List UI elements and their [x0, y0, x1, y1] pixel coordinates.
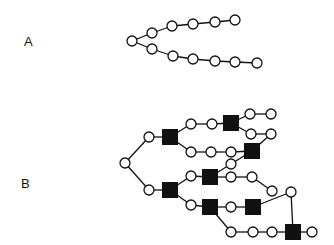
open-circle-node	[188, 19, 198, 29]
open-circle-node	[245, 109, 255, 119]
open-circle-node	[186, 200, 196, 210]
open-circle-node	[252, 58, 262, 68]
open-circle-node	[186, 171, 196, 181]
open-circle-node	[168, 51, 178, 61]
open-circle-node	[147, 28, 157, 38]
open-circle-node	[206, 147, 216, 157]
filled-square-node	[285, 224, 301, 240]
filled-square-node	[162, 129, 178, 145]
open-circle-node	[247, 172, 257, 182]
open-circle-node	[127, 36, 137, 46]
open-circle-node	[267, 186, 277, 196]
open-circle-node	[226, 147, 236, 157]
filled-square-node	[202, 169, 218, 185]
open-circle-node	[230, 57, 240, 67]
open-circle-node	[266, 129, 276, 139]
open-circle-node	[226, 227, 236, 237]
filled-square-node	[162, 182, 178, 198]
open-circle-node	[246, 129, 256, 139]
open-circle-node	[120, 158, 130, 168]
open-circle-node	[267, 227, 277, 237]
open-circle-node	[186, 147, 196, 157]
filled-square-node	[245, 199, 261, 215]
open-circle-node	[226, 202, 236, 212]
open-circle-node	[286, 187, 296, 197]
open-circle-node	[230, 15, 240, 25]
open-circle-node	[226, 172, 236, 182]
open-circle-node	[186, 119, 196, 129]
open-circle-node	[248, 227, 258, 237]
open-circle-node	[210, 56, 220, 66]
filled-square-node	[202, 199, 218, 215]
open-circle-node	[147, 44, 157, 54]
open-circle-node	[266, 109, 276, 119]
open-circle-node	[188, 54, 198, 64]
open-circle-node	[144, 185, 154, 195]
open-circle-node	[167, 21, 177, 31]
open-circle-node	[307, 227, 317, 237]
filled-square-node	[223, 115, 239, 131]
open-circle-node	[226, 159, 236, 169]
open-circle-node	[144, 132, 154, 142]
open-circle-node	[207, 119, 217, 129]
diagram-nodes	[120, 15, 317, 240]
filled-square-node	[244, 143, 260, 159]
branching-chain-diagram	[0, 0, 334, 245]
open-circle-node	[210, 17, 220, 27]
